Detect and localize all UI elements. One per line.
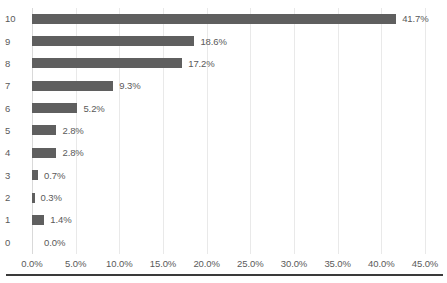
bar-value-label-1: 1.4% xyxy=(50,214,71,225)
y-axis-label-3: 3 xyxy=(0,165,27,186)
bar-3 xyxy=(32,170,38,180)
y-axis-label-10: 10 xyxy=(0,8,27,29)
bar-value-label-2: 0.3% xyxy=(41,192,62,203)
x-axis-tick-45.0: 45.0% xyxy=(412,258,438,269)
y-axis-label-1: 1 xyxy=(0,209,27,230)
bar-8 xyxy=(32,58,182,68)
x-axis-tick-40.0: 40.0% xyxy=(368,258,394,269)
bar-value-label-3: 0.7% xyxy=(44,170,65,181)
bar-6 xyxy=(32,103,77,113)
bar-value-label-10: 41.7% xyxy=(402,13,428,24)
bar-7 xyxy=(32,81,113,91)
bar-value-label-6: 5.2% xyxy=(83,103,104,114)
x-axis-tick-10.0: 10.0% xyxy=(106,258,132,269)
bar-1 xyxy=(32,215,44,225)
bottom-rule-divider xyxy=(6,274,443,276)
x-axis-tick-30.0: 30.0% xyxy=(281,258,307,269)
x-axis-tick-25.0: 25.0% xyxy=(237,258,263,269)
y-axis-label-8: 8 xyxy=(0,53,27,74)
bar-10 xyxy=(32,14,396,24)
bar-5 xyxy=(32,125,56,135)
x-axis-tick-15.0: 15.0% xyxy=(150,258,176,269)
horizontal-bar-chart: 41.7%18.6%17.2%9.3%5.2%2.8%2.8%0.7%0.3%1… xyxy=(0,0,447,283)
bar-9 xyxy=(32,36,194,46)
bar-row: 41.7% xyxy=(32,8,447,29)
x-axis-tick-20.0: 20.0% xyxy=(193,258,219,269)
bar-row: 0.7% xyxy=(32,165,447,186)
bar-series: 41.7%18.6%17.2%9.3%5.2%2.8%2.8%0.7%0.3%1… xyxy=(32,8,447,254)
y-axis-label-5: 5 xyxy=(0,120,27,141)
bar-value-label-5: 2.8% xyxy=(62,125,83,136)
bar-4 xyxy=(32,148,56,158)
bar-row: 5.2% xyxy=(32,97,447,118)
bar-row: 9.3% xyxy=(32,75,447,96)
bar-2 xyxy=(32,193,35,203)
bar-row: 1.4% xyxy=(32,209,447,230)
x-axis-tick-labels: 0.0%5.0%10.0%15.0%20.0%25.0%30.0%35.0%40… xyxy=(0,258,447,272)
y-axis-label-6: 6 xyxy=(0,97,27,118)
bar-value-label-9: 18.6% xyxy=(200,36,226,47)
bar-value-label-8: 17.2% xyxy=(188,58,214,69)
bar-row: 18.6% xyxy=(32,30,447,51)
x-axis-tick-5.0: 5.0% xyxy=(65,258,86,269)
bar-value-label-4: 2.8% xyxy=(62,147,83,158)
y-axis-label-9: 9 xyxy=(0,30,27,51)
y-axis-label-4: 4 xyxy=(0,142,27,163)
bar-row: 2.8% xyxy=(32,120,447,141)
y-axis-category-labels: 109876543210 xyxy=(0,8,27,254)
y-axis-label-0: 0 xyxy=(0,232,27,253)
bar-value-label-7: 9.3% xyxy=(119,80,140,91)
bar-row: 0.3% xyxy=(32,187,447,208)
x-axis-tick-35.0: 35.0% xyxy=(324,258,350,269)
y-axis-label-2: 2 xyxy=(0,187,27,208)
bar-row: 17.2% xyxy=(32,53,447,74)
bar-value-label-0: 0.0% xyxy=(44,237,65,248)
bar-row: 0.0% xyxy=(32,232,447,253)
x-axis-tick-0.0: 0.0% xyxy=(21,258,42,269)
y-axis-label-7: 7 xyxy=(0,75,27,96)
bar-row: 2.8% xyxy=(32,142,447,163)
